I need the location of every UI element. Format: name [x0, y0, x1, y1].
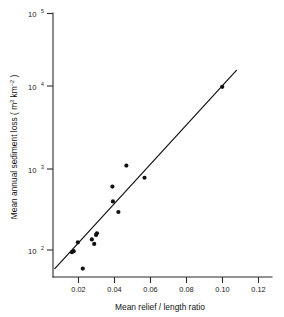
data-point: [90, 237, 94, 241]
data-point: [81, 266, 85, 270]
data-point: [110, 184, 114, 188]
data-point: [76, 240, 80, 244]
x-tick-label-2: 0.06: [143, 285, 157, 294]
x-axis-tick-labels: 0.02 0.04 0.06 0.08 0.10 0.12: [71, 285, 265, 294]
data-point: [95, 231, 99, 235]
data-point: [116, 210, 120, 214]
x-axis-ticks: [79, 277, 259, 283]
x-tick-label-4: 0.10: [215, 285, 229, 294]
regression-trend-line: [55, 70, 237, 268]
y-tick-label-1e2-exp: 2: [41, 245, 44, 251]
data-point: [220, 85, 224, 89]
y-axis-ticks: [47, 14, 53, 251]
x-tick-label-3: 0.08: [179, 285, 193, 294]
y-axis-title-group: Mean annual sediment loss ( m3 km−2 ): [9, 75, 19, 220]
y-tick-label-1e4-exp: 4: [41, 81, 44, 87]
y-axis-tick-labels: 10 5 10 4 10 3 10 2: [28, 8, 44, 256]
y-tick-label-1e3-base: 10: [28, 166, 36, 175]
x-axis-title: Mean relief / length ratio: [115, 302, 205, 312]
y-tick-label-1e5-base: 10: [28, 10, 36, 19]
y-axis-title-prefix: Mean annual sediment loss ( m: [9, 103, 19, 219]
x-tick-label-5: 0.12: [251, 285, 265, 294]
y-tick-label-1e2-base: 10: [28, 247, 36, 256]
y-axis-title-suffix: ): [9, 75, 19, 80]
data-point: [92, 242, 96, 246]
y-tick-label-1e5-exp: 5: [41, 8, 44, 14]
data-point: [72, 249, 76, 253]
y-tick-label-1e4-base: 10: [28, 83, 36, 92]
x-tick-label-1: 0.04: [107, 285, 121, 294]
chart-figure: 10 5 10 4 10 3 10 2 0.02 0.04 0.06 0.08 …: [0, 0, 284, 317]
scatter-points-group: [70, 85, 225, 271]
y-axis-title-middle: km: [9, 86, 19, 100]
x-tick-label-0: 0.02: [71, 285, 85, 294]
data-point: [111, 199, 115, 203]
data-point: [124, 163, 128, 167]
y-axis-title: Mean annual sediment loss ( m3 km−2 ): [9, 75, 19, 220]
scatter-plot-svg: 10 5 10 4 10 3 10 2 0.02 0.04 0.06 0.08 …: [0, 0, 284, 317]
data-point: [142, 176, 146, 180]
y-tick-label-1e3-exp: 3: [41, 164, 44, 170]
